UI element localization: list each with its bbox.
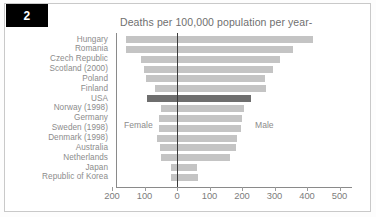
value-axis-ticks: 2001000100200300400500 bbox=[0, 0, 376, 217]
tick-label: 500 bbox=[332, 190, 348, 201]
tick-label: 400 bbox=[299, 190, 315, 201]
tick-label: 200 bbox=[104, 190, 120, 201]
tick-label: 100 bbox=[202, 190, 218, 201]
tick-label: 0 bbox=[174, 190, 179, 201]
figure-number-tab: 2 bbox=[6, 4, 48, 27]
tick-label: 200 bbox=[234, 190, 250, 201]
figure-panel: 2 Deaths per 100,000 population per year… bbox=[0, 0, 376, 217]
tick-label: 100 bbox=[137, 190, 153, 201]
tick-label: 300 bbox=[267, 190, 283, 201]
